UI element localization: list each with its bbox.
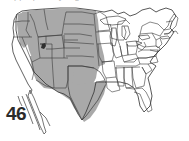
state-borders-northeast xyxy=(138,14,178,52)
us-map xyxy=(0,0,189,141)
lake-superior-icon xyxy=(100,16,126,25)
lake-erie-icon xyxy=(126,41,142,46)
figure-container: ppropriately regions xyxy=(0,0,189,141)
figure-number-label: 46 xyxy=(6,104,26,123)
state-borders-southeast xyxy=(116,41,158,112)
